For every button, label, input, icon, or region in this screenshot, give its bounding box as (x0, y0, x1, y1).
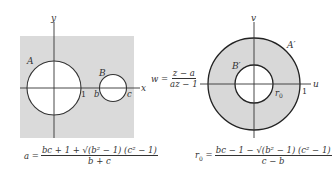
r0-formula: r0 = bc − 1 − √(b² − 1) (c² − 1) c − b (195, 145, 332, 166)
a-formula-denominator: b + c (88, 156, 111, 166)
a-formula-fraction: bc + 1 + √(b² − 1) (c² − 1) b + c (41, 145, 158, 166)
mapping-formula: w = z − a az − 1 (151, 68, 198, 89)
r0-eq: = (206, 150, 213, 160)
r0-formula-lhs: r0 = (195, 150, 213, 162)
mapping-denominator: az − 1 (170, 79, 197, 89)
point-1-label: 1 (302, 87, 307, 96)
point-1-label: 1 (81, 90, 86, 99)
circle-b-label: B (98, 68, 106, 78)
r0-formula-numerator: bc − 1 − √(b² − 1) (c² − 1) (215, 145, 332, 156)
a-formula-numerator: bc + 1 + √(b² − 1) (c² − 1) (41, 145, 158, 156)
v-axis-label: v (251, 13, 256, 23)
u-axis-label: u (313, 79, 319, 89)
r0-formula-denominator: c − b (262, 156, 285, 166)
y-axis-label: y (50, 13, 57, 23)
a-formula-lhs: a = (24, 151, 39, 161)
mapping-numerator: z − a (172, 68, 196, 79)
a-formula: a = bc + 1 + √(b² − 1) (c² − 1) b + c (24, 145, 158, 166)
mapping-lhs: w = (151, 74, 168, 84)
z-plane: x y A B 1 b c (20, 13, 146, 138)
outer-circle-label: A′ (286, 40, 296, 50)
r0-sub: 0 (199, 154, 203, 161)
circle-a-label: A (26, 56, 34, 66)
x-axis-label: x (141, 83, 146, 93)
inner-circle-label: B′ (231, 61, 241, 71)
w-plane: u v A′ B′ 1 r0 (200, 13, 319, 138)
point-b-label: b (94, 89, 99, 99)
mapping-fraction: z − a az − 1 (170, 68, 197, 89)
r0-formula-fraction: bc − 1 − √(b² − 1) (c² − 1) c − b (215, 145, 332, 166)
point-c-label: c (127, 89, 132, 99)
